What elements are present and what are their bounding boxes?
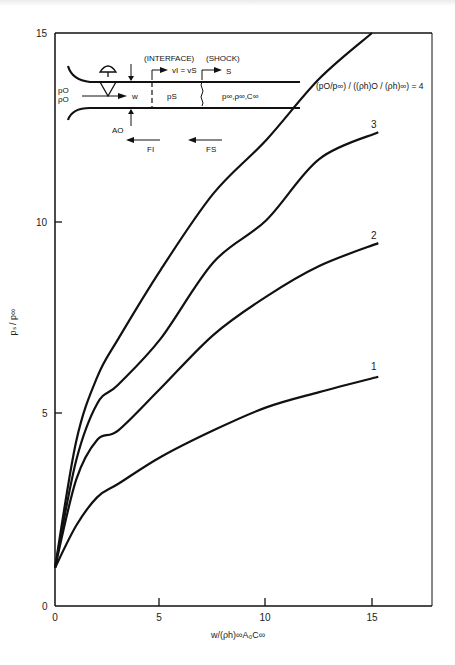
- curve-label-3: 3: [371, 119, 377, 130]
- parameter-legend: (pO/p∞) / ((ρh)O / (ρh)∞) = 4: [316, 81, 424, 91]
- curve-series-1: [55, 377, 378, 568]
- rho0-label: ρO: [58, 95, 69, 104]
- y-axis-label: pₛ / p∞: [8, 309, 18, 336]
- p0-label: pO: [58, 86, 69, 95]
- y-axis: 15 10 5 0 pₛ / p∞: [8, 28, 62, 612]
- x-tick-label: 0: [52, 612, 58, 623]
- interface-label: (INTERFACE): [144, 54, 195, 63]
- x-tick-label: 5: [156, 612, 162, 623]
- y-tick-label: 5: [42, 408, 48, 419]
- y-tick-label: 10: [36, 217, 48, 228]
- x-axis: 0 5 10 15 w/(ρh)∞A₀C∞: [52, 598, 378, 640]
- curve-label-2: 2: [371, 230, 377, 241]
- curve-series-2: [55, 243, 378, 568]
- y-tick-label: 0: [42, 601, 48, 612]
- shock-label: (SHOCK): [206, 54, 240, 63]
- curve-series-3: [55, 132, 378, 568]
- fs-label: FS: [206, 145, 216, 154]
- y-tick-label: 15: [36, 28, 48, 39]
- curves: [55, 33, 378, 568]
- ps-label: pS: [167, 92, 177, 101]
- x-tick-label: 15: [366, 612, 378, 623]
- x-axis-label: w/(ρh)∞A₀C∞: [210, 630, 265, 640]
- velocity-label: vI = vS: [172, 66, 197, 75]
- curve-label-1: 1: [371, 361, 377, 372]
- chart: 15 10 5 0 pₛ / p∞ 0 5 10 15 w/(ρh)∞A₀C∞ …: [0, 0, 455, 665]
- fi-label: FI: [147, 145, 154, 154]
- curve-series-4: [55, 33, 372, 568]
- ambient-label: p∞,ρ∞,C∞: [222, 92, 259, 101]
- a0-label: AO: [112, 126, 124, 135]
- shock-s-label: S: [226, 67, 231, 76]
- w-label: w: [131, 92, 138, 101]
- x-tick-label: 10: [259, 612, 271, 623]
- inset-diagram: (INTERFACE) (SHOCK) vI = vS S pO ρO w pS…: [58, 54, 300, 154]
